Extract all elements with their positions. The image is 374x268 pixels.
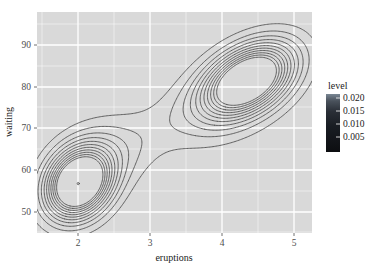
x-tick-label-0: 2 [76, 238, 81, 248]
legend-colorbar [326, 94, 340, 152]
contour-plot-figure: 2 3 4 5 50 60 70 80 90 eruptions waiting… [0, 0, 374, 268]
y-tick-label-4: 90 [22, 40, 32, 50]
y-axis-title: waiting [3, 107, 14, 137]
legend-label-2: 0.010 [343, 119, 365, 129]
x-tick-label-1: 3 [148, 238, 153, 248]
y-axis-ticks [34, 45, 37, 212]
legend-label-0: 0.020 [343, 93, 365, 103]
x-tick-label-3: 5 [292, 238, 297, 248]
legend-label-1: 0.015 [343, 106, 365, 116]
y-tick-label-1: 60 [22, 165, 32, 175]
plot-canvas: 2 3 4 5 50 60 70 80 90 eruptions waiting… [0, 0, 374, 268]
legend: level 0.020 0.015 0.010 0.005 [326, 80, 365, 152]
x-axis-ticks [78, 233, 294, 236]
y-tick-label-0: 50 [22, 207, 32, 217]
legend-title: level [328, 80, 348, 91]
x-axis-title: eruptions [155, 252, 192, 263]
x-tick-label-2: 4 [220, 238, 225, 248]
legend-label-3: 0.005 [343, 132, 365, 142]
y-tick-label-2: 70 [22, 123, 32, 133]
y-tick-label-3: 80 [22, 82, 32, 92]
